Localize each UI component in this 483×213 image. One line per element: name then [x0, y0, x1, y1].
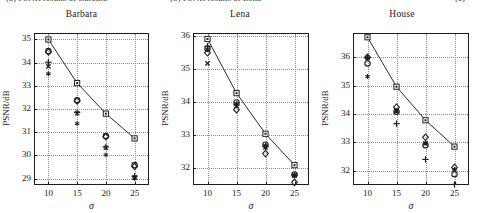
series-line-proposed — [368, 37, 455, 146]
series-markers-method-2 — [365, 61, 457, 177]
series-markers-method-5 — [205, 61, 296, 178]
chart-panel-lena: Lena323334353610152025σPSNR/dB — [161, 9, 319, 213]
cut-off-caption-strip: (a) PSNR results of Barbara(b) PSNR resu… — [0, 0, 483, 9]
series-markers-method-2 — [46, 48, 138, 167]
series-markers-method-2 — [205, 46, 297, 177]
data-overlay — [4, 9, 159, 213]
data-overlay — [321, 9, 483, 213]
chart-panel-house: House323334353610152025σPSNR/dB — [321, 9, 483, 213]
series-markers-proposed — [365, 35, 457, 150]
series-markers-method-3 — [45, 49, 137, 170]
series-markers-method-4 — [204, 43, 297, 178]
caption-fragment: (c) — [455, 0, 465, 3]
series-markers-proposed — [46, 37, 137, 141]
series-markers-method-6 — [205, 47, 296, 177]
series-markers-method-3 — [365, 54, 458, 171]
series-line-proposed — [48, 39, 134, 138]
caption-fragment: (b) PSNR results of Lena — [170, 0, 261, 3]
series-line-proposed — [208, 39, 295, 165]
series-markers-method-3 — [205, 50, 298, 186]
series-markers-method-5 — [46, 64, 137, 179]
caption-fragment: (a) PSNR results of Barbara — [6, 0, 107, 3]
series-markers-method-6 — [365, 74, 456, 172]
data-overlay — [161, 9, 319, 213]
series-markers-proposed — [205, 36, 297, 167]
series-markers-method-6 — [46, 71, 137, 181]
chart-panel-barbara: Barbara2930313233343510152025σPSNR/dB — [4, 9, 159, 213]
series-markers-method-4 — [364, 55, 457, 188]
psnr-comparison-figure: (a) PSNR results of Barbara(b) PSNR resu… — [0, 0, 483, 213]
series-markers-method-4 — [45, 59, 138, 179]
series-markers-method-5 — [365, 56, 456, 173]
